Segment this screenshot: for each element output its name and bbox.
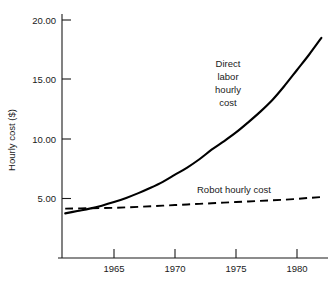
annotation-line: Direct [216,58,241,69]
annotation-line: hourly [215,84,241,95]
y-tick-label: 15.00 [32,74,56,85]
chart-figure: Hourly cost ($) 5.00 10.00 15.00 20.00 1… [0,0,333,287]
y-tick-label: 5.00 [38,193,57,204]
chart-canvas: Hourly cost ($) 5.00 10.00 15.00 20.00 1… [0,0,333,287]
x-tick-label: 1980 [286,263,307,274]
annotation-robot: Robot hourly cost [197,184,271,195]
annotation-line: labor [217,71,238,82]
y-axis-ticks: 5.00 10.00 15.00 20.00 [32,15,71,205]
y-axis-label: Hourly cost ($) [6,109,17,171]
series-direct-labor-line [65,38,321,214]
x-axis-ticks: 1965 1970 1975 1980 [103,249,307,274]
x-tick-label: 1975 [225,263,246,274]
x-tick-label: 1965 [103,263,124,274]
annotation-direct-labor: Direct labor hourly cost [215,58,241,108]
y-tick-label: 20.00 [32,15,56,26]
series-robot-line [65,197,321,209]
annotation-line: Robot hourly cost [197,184,271,195]
y-tick-label: 10.00 [32,134,56,145]
x-tick-label: 1970 [164,263,185,274]
annotation-line: cost [219,97,237,108]
